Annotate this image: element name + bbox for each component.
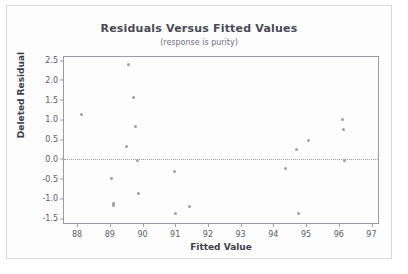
y-tick-label: 0.5: [45, 135, 64, 144]
x-tick-label: 89: [105, 223, 115, 239]
x-tick-label: 97: [366, 223, 376, 239]
data-point: [127, 63, 130, 66]
y-tick-label: -1.0: [42, 194, 64, 203]
x-tick-label: 90: [137, 223, 147, 239]
data-point: [342, 128, 345, 131]
data-point: [284, 167, 287, 170]
x-tick-label: 91: [170, 223, 180, 239]
y-tick-label: 0.0: [45, 154, 64, 163]
chart-figure: Residuals Versus Fitted Values (response…: [6, 5, 392, 259]
data-point: [112, 204, 115, 207]
data-point: [80, 113, 83, 116]
y-tick-label: -0.5: [42, 174, 64, 183]
data-point: [132, 96, 135, 99]
data-point: [307, 139, 310, 142]
chart-subtitle: (response is purity): [7, 38, 391, 47]
data-point: [343, 159, 346, 162]
data-point: [134, 125, 137, 128]
x-tick-label: 88: [72, 223, 82, 239]
x-tick-label: 95: [301, 223, 311, 239]
data-point: [125, 145, 128, 148]
data-point: [297, 212, 300, 215]
zero-reference-line: [64, 159, 378, 160]
data-point: [295, 148, 298, 151]
y-tick-label: 2.0: [45, 75, 64, 84]
chart-title: Residuals Versus Fitted Values: [7, 22, 391, 35]
data-point: [173, 170, 176, 173]
data-point: [174, 212, 177, 215]
x-tick-label: 93: [236, 223, 246, 239]
x-tick-label: 92: [203, 223, 213, 239]
y-tick-label: -1.5: [42, 214, 64, 223]
plot-area: -1.5-1.0-0.50.00.51.01.52.02.5 888990919…: [63, 56, 379, 224]
x-axis-label: Fitted Value: [63, 242, 379, 252]
y-axis-label: Deleted Residual: [16, 35, 26, 155]
data-point: [188, 205, 191, 208]
y-tick-label: 1.0: [45, 115, 64, 124]
x-tick-label: 94: [268, 223, 278, 239]
y-tick-label: 2.5: [45, 56, 64, 65]
y-tick-label: 1.5: [45, 95, 64, 104]
data-point: [136, 159, 139, 162]
data-point: [341, 118, 344, 121]
data-point: [137, 192, 140, 195]
x-tick-label: 96: [334, 223, 344, 239]
data-point: [110, 177, 113, 180]
